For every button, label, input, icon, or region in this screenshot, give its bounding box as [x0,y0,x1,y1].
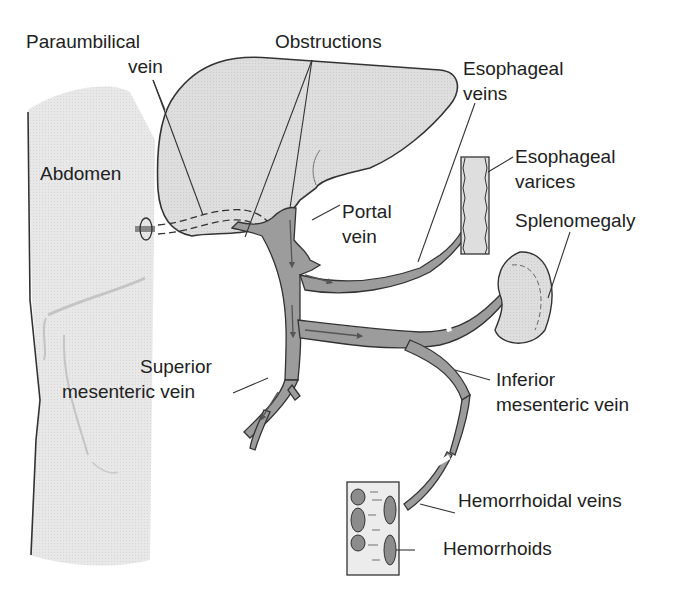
label-abdomen: Abdomen [40,163,121,185]
label-hemorrhoids: Hemorrhoids [443,538,552,560]
spleen [495,252,552,343]
label-esophageal-veins-line2: veins [463,83,507,105]
rectum-hemorrhoids [347,482,399,575]
label-inferior-mesenteric-line1: Inferior [496,369,555,391]
abdomen-shape [28,86,155,565]
label-portal-vein-line1: Portal [342,201,392,223]
label-inferior-mesenteric-line2: mesenteric vein [496,394,629,416]
label-hemorrhoidal-veins: Hemorrhoidal veins [458,490,622,512]
label-portal-vein-line2: vein [342,226,377,248]
label-paraumbilical-line2: vein [128,56,163,78]
label-paraumbilical-line1: Paraumbilical [26,31,140,53]
esophagus [461,157,489,254]
label-obstructions: Obstructions [275,31,382,53]
label-esophageal-varices-line2: varices [515,171,575,193]
liver-shape [158,57,458,236]
label-splenomegaly: Splenomegaly [515,210,635,232]
label-esophageal-veins-line1: Esophageal [463,58,563,80]
portal-hypertension-diagram: Paraumbilical vein Obstructions Esophage… [0,0,690,596]
label-esophageal-varices-line1: Esophageal [515,146,615,168]
label-superior-mesenteric-line1: Superior [140,356,212,378]
label-superior-mesenteric-line2: mesenteric vein [62,381,195,403]
